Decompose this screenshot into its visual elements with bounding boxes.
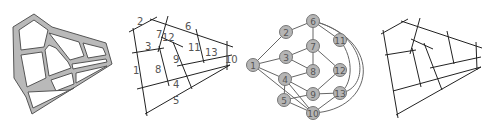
street-network-figure: 12345678910111213 12345678910111213 [0,0,489,131]
unlabeled-axial-lines [0,0,489,131]
